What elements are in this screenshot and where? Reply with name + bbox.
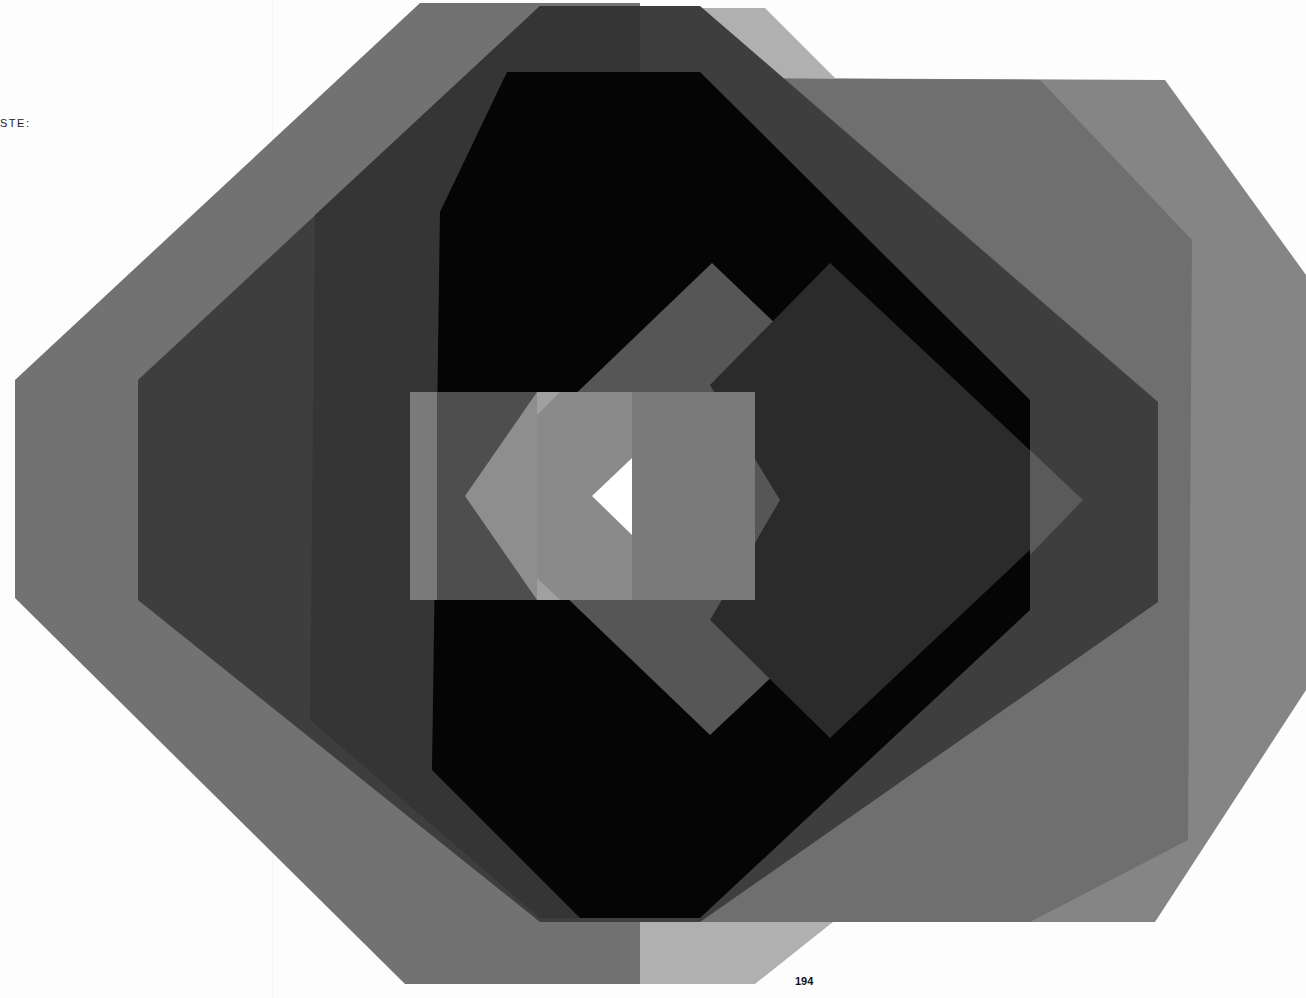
- page-number: 194: [795, 975, 813, 987]
- print-page: STE: 194: [0, 0, 1306, 998]
- geometric-artwork: [0, 0, 1306, 998]
- margin-text-fragment: STE:: [0, 117, 30, 129]
